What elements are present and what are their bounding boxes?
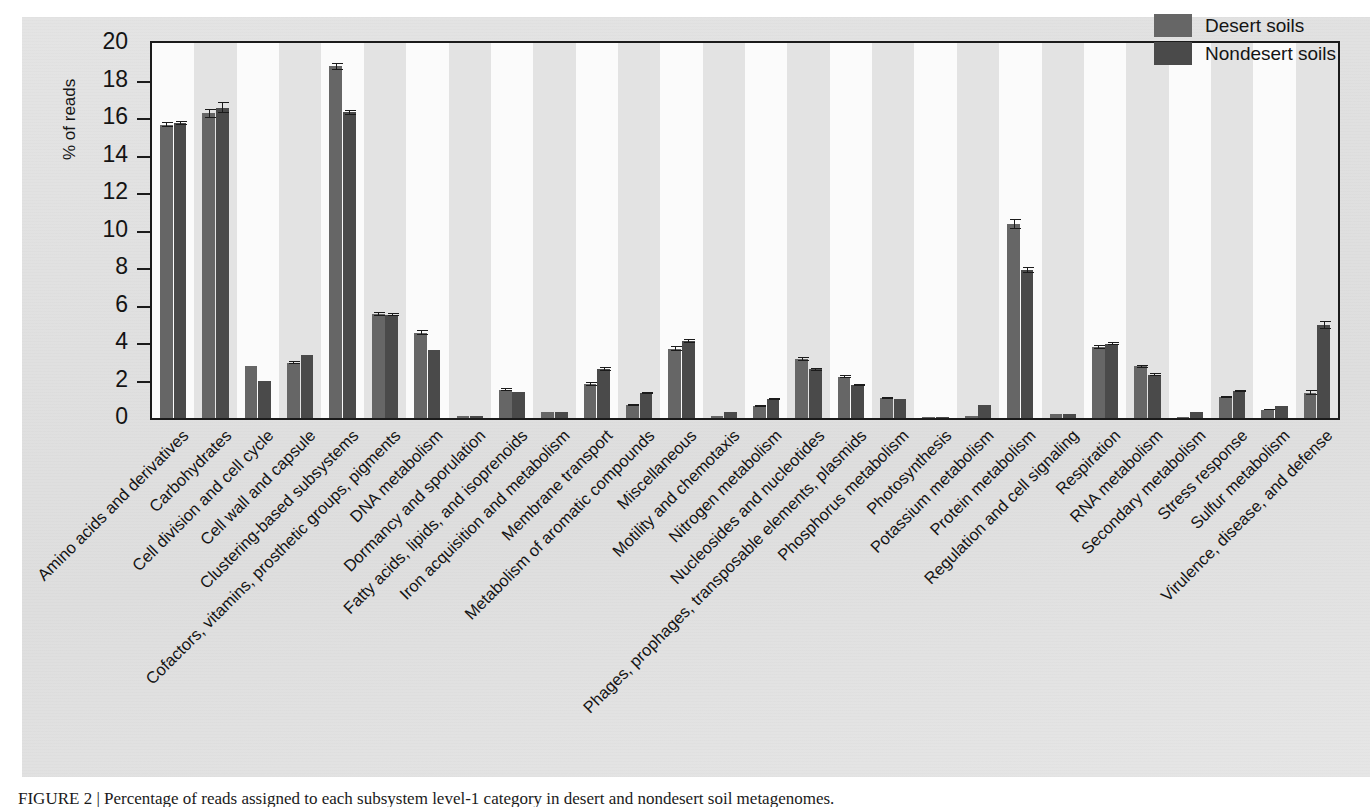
error-bar-nondesert-11 [646, 392, 647, 394]
bar-nondesert-13 [724, 412, 737, 418]
background-stripe [787, 43, 829, 418]
legend-item-nondesert-soils: Nondesert soils [1154, 42, 1336, 65]
error-bar-desert-27 [1310, 390, 1311, 395]
bar-desert-1 [202, 113, 215, 418]
legend-swatch-nondesert-soils [1154, 42, 1192, 65]
background-stripe [1126, 43, 1168, 418]
bar-desert-3 [287, 363, 300, 418]
error-bar-nondesert-0 [180, 121, 181, 125]
error-bar-desert-22 [1098, 345, 1099, 349]
y-tick-label: 6 [55, 291, 128, 318]
bar-nondesert-10 [597, 369, 610, 418]
y-axis-title: % of reads [60, 79, 80, 160]
background-stripe [449, 43, 491, 418]
y-tick-mark [137, 81, 150, 83]
bar-nondesert-24 [1190, 412, 1203, 418]
y-tick-mark [137, 268, 150, 270]
legend-item-desert-soils: Desert soils [1154, 14, 1336, 37]
bar-nondesert-7 [470, 416, 483, 418]
bar-nondesert-11 [640, 393, 653, 418]
bar-nondesert-15 [809, 369, 822, 418]
y-tick-label: 12 [55, 178, 128, 205]
error-bar-nondesert-22 [1112, 342, 1113, 345]
chart-legend: Desert soils Nondesert soils [1154, 14, 1336, 70]
y-tick-label: 20 [55, 28, 128, 55]
error-bar-desert-3 [293, 361, 294, 364]
bar-desert-2 [245, 366, 258, 418]
figure-page: 02468101214161820 % of reads Amino acids… [0, 0, 1370, 807]
bar-desert-7 [457, 416, 470, 418]
bar-desert-21 [1050, 414, 1063, 418]
error-bar-desert-5 [378, 312, 379, 316]
bar-nondesert-16 [851, 385, 864, 418]
error-bar-nondesert-4 [349, 110, 350, 116]
bar-nondesert-9 [555, 412, 568, 418]
error-bar-desert-16 [844, 375, 845, 378]
bar-nondesert-21 [1063, 414, 1076, 418]
bar-nondesert-23 [1148, 375, 1161, 418]
error-bar-nondesert-14 [773, 398, 774, 400]
y-tick-label: 0 [55, 403, 128, 430]
bar-nondesert-17 [894, 399, 907, 418]
bar-nondesert-6 [428, 350, 441, 418]
bar-desert-22 [1092, 347, 1105, 418]
error-bar-nondesert-23 [1154, 373, 1155, 376]
y-tick-label: 2 [55, 366, 128, 393]
error-bar-desert-11 [632, 404, 633, 406]
bar-desert-20 [1007, 224, 1020, 418]
bar-desert-26 [1261, 410, 1274, 418]
bar-desert-8 [499, 390, 512, 418]
bar-desert-27 [1304, 393, 1317, 418]
error-bar-desert-4 [336, 63, 337, 70]
bar-nondesert-4 [343, 112, 356, 418]
bar-desert-25 [1219, 397, 1232, 418]
background-stripe [703, 43, 745, 418]
error-bar-desert-25 [1225, 396, 1226, 398]
y-tick-mark [137, 306, 150, 308]
bar-desert-5 [372, 314, 385, 418]
y-tick-mark [137, 381, 150, 383]
error-bar-nondesert-25 [1239, 390, 1240, 392]
error-bar-desert-23 [1141, 365, 1142, 369]
bar-nondesert-22 [1105, 344, 1118, 418]
bar-nondesert-3 [301, 355, 314, 418]
error-bar-desert-12 [675, 346, 676, 351]
y-tick-label: 10 [55, 216, 128, 243]
error-bar-desert-15 [802, 357, 803, 361]
error-bar-desert-26 [1268, 409, 1269, 410]
background-stripe [1042, 43, 1084, 418]
y-tick-mark [137, 156, 150, 158]
bar-nondesert-0 [174, 123, 187, 418]
error-bar-nondesert-15 [815, 368, 816, 371]
bar-nondesert-19 [978, 405, 991, 418]
background-stripe [618, 43, 660, 418]
error-bar-desert-17 [886, 397, 887, 399]
error-bar-desert-0 [166, 122, 167, 127]
bar-desert-11 [626, 405, 639, 418]
bar-desert-13 [711, 416, 724, 418]
bar-desert-4 [329, 66, 342, 418]
bar-nondesert-12 [682, 341, 695, 418]
error-bar-desert-1 [209, 109, 210, 118]
bar-desert-24 [1177, 417, 1190, 418]
error-bar-nondesert-12 [688, 339, 689, 344]
error-bar-nondesert-20 [1027, 267, 1028, 274]
error-bar-desert-8 [505, 388, 506, 391]
chart-plot-area [150, 41, 1340, 420]
legend-label-nondesert-soils: Nondesert soils [1205, 43, 1336, 65]
y-tick-mark [137, 118, 150, 120]
bar-desert-0 [160, 125, 173, 418]
bar-nondesert-5 [385, 315, 398, 418]
y-tick-mark [137, 193, 150, 195]
bar-desert-16 [838, 377, 851, 418]
y-tick-mark [137, 343, 150, 345]
bar-nondesert-26 [1275, 406, 1288, 418]
background-stripe [533, 43, 575, 418]
error-bar-nondesert-1 [222, 102, 223, 113]
legend-swatch-desert-soils [1154, 14, 1192, 37]
error-bar-nondesert-10 [604, 367, 605, 371]
legend-label-desert-soils: Desert soils [1205, 15, 1304, 37]
y-tick-label: 4 [55, 328, 128, 355]
bar-desert-19 [965, 416, 978, 418]
bar-desert-15 [795, 359, 808, 418]
